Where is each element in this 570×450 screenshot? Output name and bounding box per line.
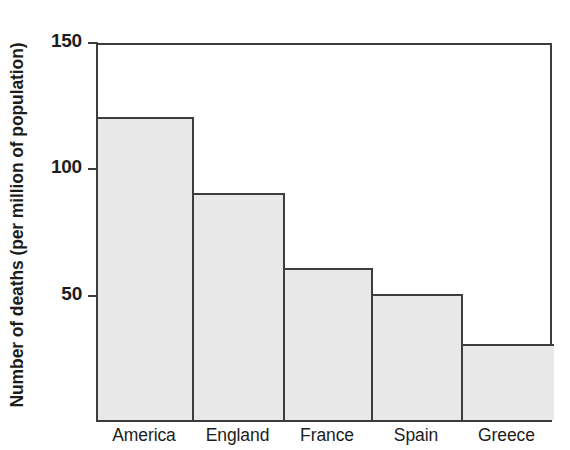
bar-spain (373, 294, 463, 420)
bar-france (285, 268, 373, 420)
bars-layer (98, 45, 550, 420)
x-axis-label-america: America (96, 425, 192, 446)
y-tick-label-150: 150 (20, 30, 82, 52)
y-tick-label-50: 50 (20, 283, 82, 305)
x-axis-label-greece: Greece (461, 425, 552, 446)
bar-chart: Number of deaths (per million of populat… (0, 0, 570, 450)
bar-england (194, 193, 285, 420)
plot-area (96, 43, 552, 422)
x-axis-label-spain: Spain (371, 425, 461, 446)
y-tick-label-100: 100 (20, 156, 82, 178)
y-axis-title: Number of deaths (per million of populat… (0, 0, 34, 450)
x-axis-label-england: England (192, 425, 283, 446)
bar-america (98, 117, 194, 420)
bar-greece (463, 344, 554, 420)
x-axis-label-france: France (283, 425, 371, 446)
